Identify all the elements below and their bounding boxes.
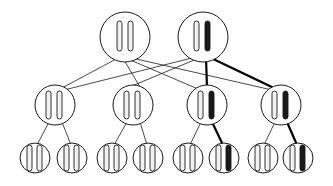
node-l5[interactable] [209,143,239,173]
node-circle [20,143,50,173]
node-circle [261,85,301,125]
glyph-bar-left-0 [255,145,260,171]
glyph-bar-left-0 [140,145,145,171]
edge-r0-m1 [124,60,140,87]
edge-m0-l0 [37,122,49,145]
glyph-bar-right-1 [283,91,288,119]
glyph-bar-right-1 [114,145,119,171]
node-l3[interactable] [133,143,163,173]
glyph-bar-left-0 [290,145,295,171]
node-circle [173,143,203,173]
glyph-bar-left-0 [104,145,109,171]
node-circle [178,12,228,62]
node-m2[interactable] [187,85,227,125]
glyph-bar-left-0 [117,21,122,51]
node-m3[interactable] [261,85,301,125]
diagram-canvas [0,0,333,186]
glyph-bar-right-1 [209,91,214,119]
node-layer [20,12,313,173]
node-circle [283,143,313,173]
tree-diagram [0,0,333,186]
glyph-bar-right-1 [190,145,195,171]
glyph-bar-right-1 [265,145,270,171]
glyph-bar-right-1 [74,145,79,171]
edge-m3-l6 [264,122,275,145]
edge-m0-l1 [62,122,71,145]
edge-r1-m3 [209,57,276,89]
glyph-bar-right-1 [57,91,62,119]
glyph-bar-right-1 [128,21,133,51]
glyph-bar-left-0 [272,91,277,119]
glyph-bar-right-1 [205,21,210,51]
node-m1[interactable] [113,85,153,125]
node-l2[interactable] [97,143,127,173]
node-circle [133,143,163,173]
node-l7[interactable] [283,143,313,173]
glyph-bar-left-0 [27,145,32,171]
edge-r1-m1 [127,58,199,88]
node-l1[interactable] [57,143,87,173]
node-r1[interactable] [178,12,228,62]
glyph-bar-left-0 [64,145,69,171]
edge-m2-l4 [190,122,201,145]
node-r0[interactable] [100,12,150,62]
glyph-bar-left-0 [198,91,203,119]
node-l4[interactable] [173,143,203,173]
edge-m3-l7 [287,122,297,145]
glyph-bar-right-1 [300,145,305,171]
node-l6[interactable] [248,143,278,173]
glyph-bar-right-1 [135,91,140,119]
node-m0[interactable] [35,85,75,125]
edge-layer [37,57,297,145]
glyph-bar-left-0 [216,145,221,171]
edge-m1-l3 [140,122,147,145]
glyph-bar-left-0 [124,91,129,119]
edge-m2-l5 [212,122,223,145]
node-circle [57,143,87,173]
glyph-bar-left-0 [180,145,185,171]
node-circle [209,143,239,173]
glyph-bar-right-1 [226,145,231,171]
node-circle [97,143,127,173]
node-circle [248,143,278,173]
glyph-bar-left-0 [194,21,199,51]
edge-m1-l2 [114,122,127,145]
glyph-bar-right-1 [37,145,42,171]
node-circle [35,85,75,125]
glyph-bar-right-1 [150,145,155,171]
node-l0[interactable] [20,143,50,173]
node-circle [187,85,227,125]
node-circle [113,85,153,125]
node-circle [100,12,150,62]
glyph-bar-left-0 [46,91,51,119]
